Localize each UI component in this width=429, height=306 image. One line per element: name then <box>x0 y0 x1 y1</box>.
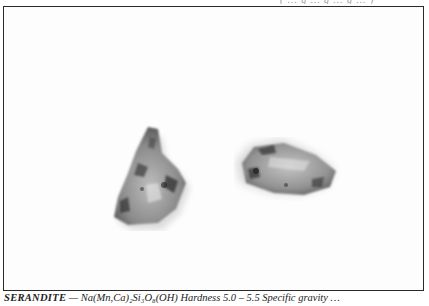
mineral-specimen-right <box>234 137 342 203</box>
mineral-name: SERANDITE <box>4 292 66 303</box>
mineral-specimen-left <box>108 123 194 231</box>
caption-text: — Na(Mn,Ca)₂Si₃O₈(OH) Hardness 5.0 – 5.5… <box>66 292 340 303</box>
figure-caption: SERANDITE — Na(Mn,Ca)₂Si₃O₈(OH) Hardness… <box>4 292 429 306</box>
specimen-photo <box>3 6 424 291</box>
top-caption-fragment: ( … g … g … g … ) <box>280 0 429 4</box>
